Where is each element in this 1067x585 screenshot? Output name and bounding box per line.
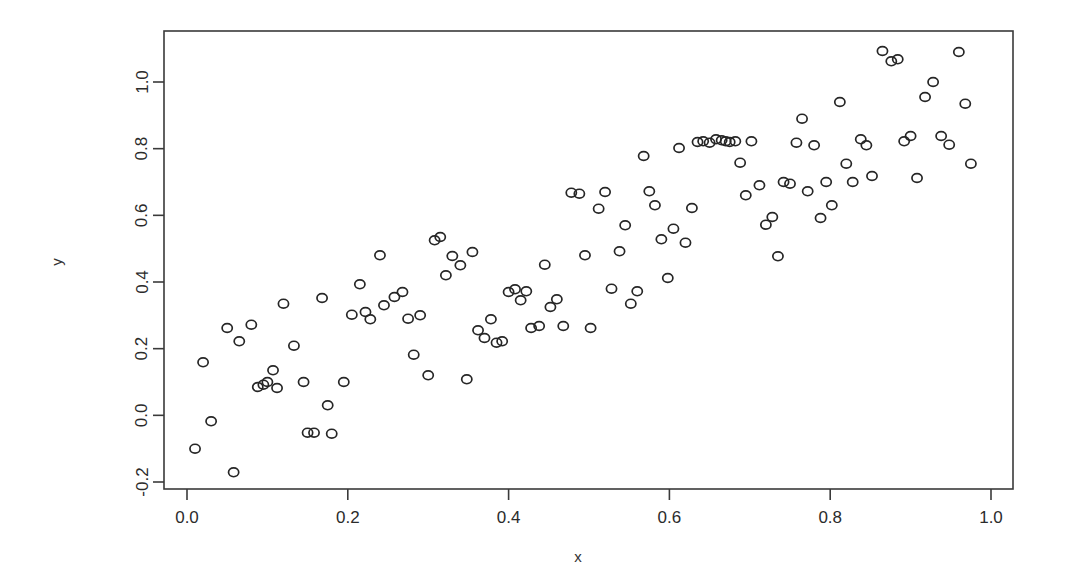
- data-point-marker: [441, 271, 451, 280]
- data-point-marker: [767, 213, 777, 222]
- data-point-marker: [190, 444, 200, 453]
- scatter-plot-figure: 0.00.20.40.60.81.0 -0.20.00.20.40.60.81.…: [0, 0, 1067, 585]
- y-tick-label: 0.6: [133, 204, 152, 228]
- data-point-marker: [841, 159, 851, 168]
- x-tick-label: 0.8: [818, 508, 842, 527]
- data-point-marker: [735, 158, 745, 167]
- data-point-marker: [960, 99, 970, 108]
- data-point-marker: [877, 47, 887, 56]
- data-point-marker: [268, 366, 278, 375]
- data-point-marker: [803, 187, 813, 196]
- data-point-marker: [886, 57, 896, 66]
- data-point-marker: [639, 152, 649, 161]
- data-point-marker: [327, 429, 337, 438]
- data-point-marker: [455, 261, 465, 270]
- data-point-marker: [234, 337, 244, 346]
- plot-box-border: [164, 31, 1013, 489]
- data-point-marker: [815, 214, 825, 223]
- data-point-marker: [323, 401, 333, 410]
- data-point-marker: [206, 417, 216, 426]
- data-point-marker: [966, 159, 976, 168]
- data-point-marker: [773, 252, 783, 261]
- y-tick-label: 0.2: [133, 337, 152, 361]
- data-point-marker: [663, 274, 673, 283]
- data-point-marker: [893, 55, 903, 64]
- data-point-marker: [317, 294, 327, 303]
- data-point-marker: [375, 251, 385, 260]
- data-point-marker: [516, 296, 526, 305]
- x-tick-label: 1.0: [979, 508, 1003, 527]
- y-tick-label: 1.0: [133, 70, 152, 94]
- data-point-marker: [797, 114, 807, 123]
- data-point-marker: [423, 371, 433, 380]
- data-point-marker: [222, 324, 232, 333]
- data-point-marker: [835, 98, 845, 107]
- data-point-marker: [246, 320, 256, 329]
- data-point-marker: [479, 334, 489, 343]
- data-point-marker: [614, 247, 624, 256]
- data-point-marker: [920, 93, 930, 102]
- data-points-layer: [190, 47, 976, 477]
- x-axis-tick-labels: 0.00.20.40.60.81.0: [175, 508, 1003, 527]
- data-point-marker: [504, 288, 514, 297]
- x-axis-ticks: [187, 489, 991, 500]
- data-point-marker: [809, 141, 819, 150]
- data-point-marker: [339, 378, 349, 387]
- plot-frame: [164, 31, 1013, 489]
- data-point-marker: [848, 178, 858, 187]
- data-point-marker: [912, 174, 922, 183]
- data-point-marker: [447, 252, 457, 261]
- data-point-marker: [606, 284, 616, 293]
- data-point-marker: [650, 201, 660, 210]
- data-point-marker: [928, 78, 938, 87]
- y-axis-ticks: [153, 82, 164, 482]
- data-point-marker: [899, 137, 909, 146]
- data-point-marker: [347, 310, 357, 319]
- data-point-marker: [821, 178, 831, 187]
- data-point-marker: [580, 251, 590, 260]
- y-tick-label: -0.2: [133, 467, 152, 496]
- data-point-marker: [272, 384, 282, 393]
- data-point-marker: [644, 187, 654, 196]
- y-axis-title: y: [48, 258, 65, 266]
- data-point-marker: [600, 188, 610, 197]
- data-point-marker: [409, 350, 419, 359]
- data-point-marker: [586, 324, 596, 333]
- data-point-marker: [778, 178, 788, 187]
- data-point-marker: [198, 358, 208, 367]
- data-point-marker: [936, 132, 946, 141]
- data-point-marker: [861, 141, 871, 150]
- data-point-marker: [674, 144, 684, 153]
- data-point-marker: [944, 140, 954, 149]
- data-point-marker: [827, 201, 837, 210]
- y-tick-label: 0.4: [133, 270, 152, 294]
- data-point-marker: [626, 299, 636, 308]
- data-point-marker: [785, 179, 795, 188]
- x-axis-title: x: [574, 548, 582, 565]
- data-point-marker: [289, 341, 299, 350]
- data-point-marker: [397, 288, 407, 297]
- data-point-marker: [298, 378, 308, 387]
- plot-canvas: 0.00.20.40.60.81.0 -0.20.00.20.40.60.81.…: [0, 0, 1067, 585]
- data-point-marker: [229, 468, 239, 477]
- data-point-marker: [552, 295, 562, 304]
- data-point-marker: [954, 48, 964, 57]
- data-point-marker: [620, 221, 630, 230]
- x-tick-label: 0.6: [658, 508, 682, 527]
- data-point-marker: [379, 301, 389, 310]
- data-point-marker: [632, 287, 642, 296]
- data-point-marker: [867, 172, 877, 181]
- y-tick-label: 0.8: [133, 137, 152, 161]
- data-point-marker: [467, 248, 477, 257]
- data-point-marker: [746, 137, 756, 146]
- data-point-marker: [355, 280, 365, 289]
- data-point-marker: [403, 314, 413, 323]
- y-axis-tick-labels: -0.20.00.20.40.60.81.0: [133, 70, 152, 496]
- data-point-marker: [415, 311, 425, 320]
- data-point-marker: [668, 224, 678, 233]
- x-tick-label: 0.4: [497, 508, 521, 527]
- data-point-marker: [687, 204, 697, 213]
- y-tick-label: 0.0: [133, 404, 152, 428]
- data-point-marker: [309, 428, 319, 437]
- data-point-marker: [656, 235, 666, 244]
